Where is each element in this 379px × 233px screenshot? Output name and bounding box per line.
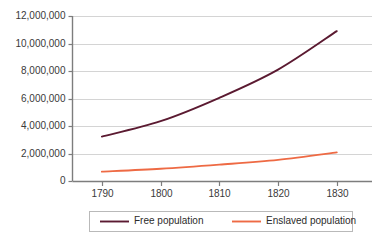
x-axis-tick-label: 1830 xyxy=(326,188,349,199)
y-axis-tick-label: 0 xyxy=(60,175,66,186)
y-axis-tick-label: 2,000,000 xyxy=(21,148,66,159)
x-axis-tick-label: 1800 xyxy=(150,188,173,199)
y-axis-tick-label: 10,000,000 xyxy=(15,38,65,49)
y-axis-tick-label: 4,000,000 xyxy=(21,120,66,131)
x-axis-tick-label: 1810 xyxy=(208,188,231,199)
y-axis-tick-label: 8,000,000 xyxy=(21,65,66,76)
legend-label-free-population[interactable]: Free population xyxy=(134,215,204,226)
population-line-chart: 02,000,0004,000,0006,000,0008,000,00010,… xyxy=(0,0,379,233)
x-axis-tick-label: 1820 xyxy=(267,188,290,199)
y-axis-tick-label: 6,000,000 xyxy=(21,93,66,104)
legend-label-enslaved-population[interactable]: Enslaved population xyxy=(266,215,356,226)
chart-background xyxy=(0,0,379,233)
chart-container: 02,000,0004,000,0006,000,0008,000,00010,… xyxy=(0,0,379,233)
x-axis-tick-label: 1790 xyxy=(91,188,114,199)
y-axis-tick-label: 12,000,000 xyxy=(15,10,65,21)
